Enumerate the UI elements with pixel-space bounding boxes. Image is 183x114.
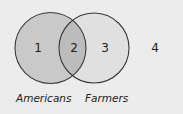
region-1-label: 1 [34, 41, 42, 55]
farmers-label: Farmers [85, 92, 129, 104]
venn-svg: 1 2 3 4 Americans Farmers [0, 0, 183, 114]
venn-diagram: 1 2 3 4 Americans Farmers [0, 0, 183, 114]
region-4-label: 4 [151, 41, 159, 55]
region-2-label: 2 [70, 41, 78, 55]
region-3-label: 3 [101, 41, 109, 55]
americans-label: Americans [15, 92, 72, 104]
